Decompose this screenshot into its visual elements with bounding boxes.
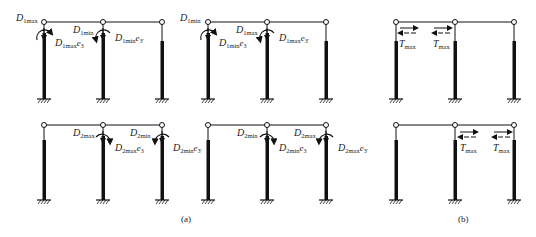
label-d2max: D2max: [73, 128, 95, 141]
label-d1max-f2: D1max: [236, 25, 258, 38]
caption-panel-b: (b): [458, 214, 469, 224]
label-d2max-e3: D2maxe3: [115, 143, 144, 156]
label-d1max-e3: D1maxe3: [55, 38, 84, 51]
label-d2max-e3prime-f5: D2maxe3': [338, 143, 368, 156]
label-tmax-4: Tmax: [493, 143, 510, 156]
frame-bottom-right: [389, 123, 521, 205]
frame-top-left: [37, 20, 169, 104]
label-tmax-1: Tmax: [399, 39, 416, 52]
label-d2min-e3prime: D2mine3': [173, 143, 202, 156]
caption-panel-a: (a): [181, 214, 191, 224]
frame-top-middle: [201, 20, 333, 104]
frame-top-right: [389, 20, 521, 104]
label-d1max-e3prime-f2: D1maxe3': [279, 33, 309, 46]
label-d1min-e3-f2: D1mine3: [219, 38, 247, 51]
label-d1max: D1max: [16, 13, 38, 26]
label-d2min-f5: D2min: [237, 128, 258, 141]
label-d1min: D1min: [73, 25, 94, 38]
label-d2max-f5: D2max: [294, 128, 316, 141]
label-tmax-2: Tmax: [433, 39, 450, 52]
label-tmax-3: Tmax: [460, 143, 477, 156]
label-d1min-e3prime: D1mine3': [115, 33, 144, 46]
label-d1min-f2: D1min: [180, 13, 201, 26]
label-d2min: D2min: [130, 128, 151, 141]
label-d2min-e3-f5: D2mine3: [279, 143, 307, 156]
